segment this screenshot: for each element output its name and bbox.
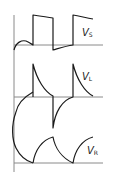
vr-initial-arc (13, 112, 33, 163)
rl-waveform-diagram: VS VL VR (0, 0, 113, 174)
vr-label: VR (87, 146, 98, 156)
vr-trace (33, 137, 93, 163)
vl-initial-segment (16, 92, 33, 112)
vl-label: VL (82, 72, 92, 82)
vs-label: VS (82, 28, 93, 38)
